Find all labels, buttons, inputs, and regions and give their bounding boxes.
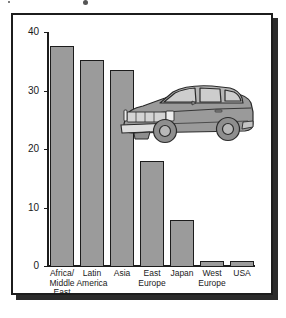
x-label-usa: USA	[221, 269, 263, 279]
x-axis-category-labels: Africa/ Middle East Latin America Asia E…	[47, 269, 262, 309]
bar-africa-middle-east[interactable]	[50, 46, 74, 268]
chart-frame: 40 30 20 10 0 Africa/ Middle East	[11, 13, 273, 295]
scan-artifact-dot-center	[83, 0, 88, 5]
bar-latin-america[interactable]	[80, 60, 104, 267]
bar-usa[interactable]	[230, 261, 254, 267]
y-tick-label-40: 40	[15, 27, 39, 37]
bar-east-europe[interactable]	[140, 161, 164, 267]
chart-figure: 40 30 20 10 0 Africa/ Middle East	[11, 13, 273, 295]
y-tick-label-30: 30	[15, 86, 39, 96]
car-illustration	[117, 81, 257, 151]
plot-area: 40 30 20 10 0 Africa/ Middle East	[13, 15, 271, 293]
y-tick-label-10: 10	[15, 203, 39, 213]
bar-japan[interactable]	[170, 220, 194, 267]
y-tick-label-20: 20	[15, 144, 39, 154]
y-tick-label-0: 0	[15, 261, 39, 271]
bar-west-europe[interactable]	[200, 261, 224, 267]
scan-artifact-dot-left	[8, 1, 10, 3]
